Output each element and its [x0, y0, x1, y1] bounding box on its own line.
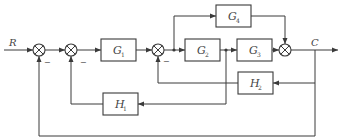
output-label-c: C — [311, 37, 319, 48]
sign-minus-s3: − — [163, 57, 170, 66]
summing-junction-4 — [279, 44, 291, 56]
svg-text:1: 1 — [121, 51, 125, 58]
sign-minus-s1: − — [44, 58, 51, 67]
block-g1: G 1 — [101, 39, 136, 61]
wire-h1-s2 — [71, 56, 103, 104]
block-g3: G 3 — [237, 39, 272, 61]
block-g4: G 4 — [216, 5, 251, 27]
sign-minus-s2: − — [80, 58, 87, 67]
wire-outer-feedback — [39, 56, 315, 136]
summing-junction-1 — [33, 44, 45, 56]
summing-junction-2 — [65, 44, 77, 56]
input-label-r: R — [8, 37, 17, 48]
svg-text:3: 3 — [257, 51, 261, 58]
block-h1: H 1 — [103, 93, 138, 115]
block-h2: H 2 — [238, 72, 273, 94]
svg-text:2: 2 — [205, 51, 209, 58]
svg-text:4: 4 — [236, 17, 240, 24]
svg-text:2: 2 — [258, 84, 262, 91]
svg-text:1: 1 — [123, 105, 127, 112]
summing-junction-3 — [152, 44, 164, 56]
block-diagram: R − − G 1 − G 4 G 2 — [0, 0, 341, 140]
block-g2: G 2 — [185, 39, 220, 61]
wire-c-h2 — [273, 50, 315, 83]
